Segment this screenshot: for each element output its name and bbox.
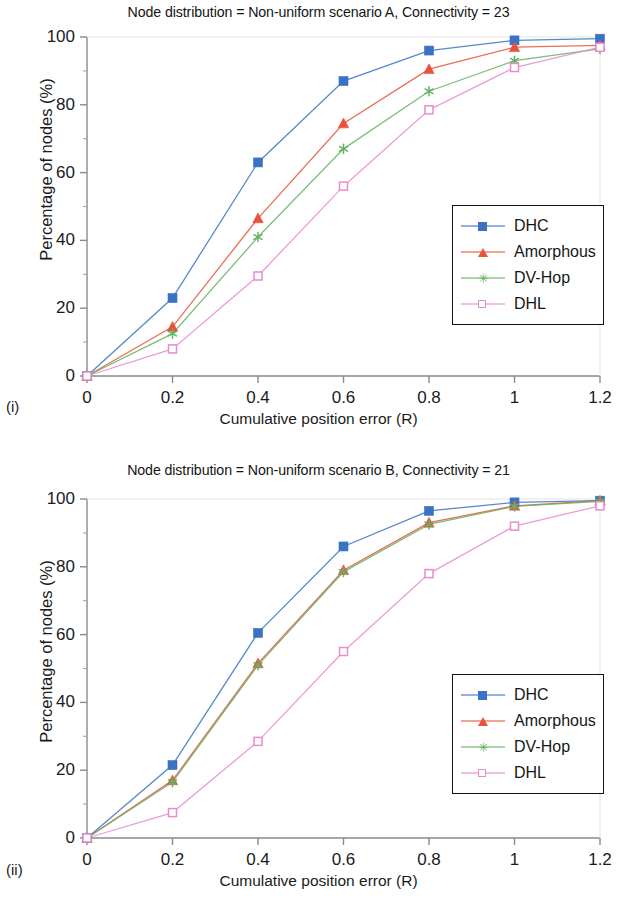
legend-label: DHL: [514, 765, 546, 781]
x-tick-label: 1: [510, 388, 519, 408]
y-tick-label: 100: [0, 27, 75, 47]
y-tick-label: 80: [0, 95, 75, 115]
y-tick-label: 60: [0, 625, 75, 645]
y-tick-label: 60: [0, 163, 75, 183]
x-tick-label: 0: [82, 388, 91, 408]
plot-area-ii: Percentage of nodes (%) Cumulative posit…: [0, 462, 637, 901]
subfigure-label-i: (i): [6, 398, 19, 415]
legend-i: DHCAmorphous✳DV-HopDHL: [452, 205, 604, 325]
legend-item-dhc[interactable]: DHC: [461, 682, 593, 708]
x-tick-label: 1: [510, 850, 519, 870]
x-axis-label-i: Cumulative position error (R): [0, 410, 637, 428]
x-tick-label: 0.8: [417, 850, 441, 870]
legend-label: DHL: [514, 296, 546, 312]
legend-item-dhl[interactable]: DHL: [461, 291, 593, 317]
x-tick-label: 0.6: [332, 388, 356, 408]
subfigure-label-ii: (ii): [6, 861, 23, 878]
y-tick-label: 0: [0, 366, 75, 386]
legend-item-dv-hop[interactable]: ✳DV-Hop: [461, 265, 593, 291]
y-axis-label-ii: Percentage of nodes (%): [37, 502, 56, 802]
x-tick-label: 0.8: [417, 388, 441, 408]
x-tick-label: 0.4: [246, 388, 270, 408]
legend-marker-filled-square-icon: [461, 685, 505, 705]
legend-label: DV-Hop: [514, 270, 570, 286]
y-tick-label: 20: [0, 760, 75, 780]
legend-item-amorphous[interactable]: Amorphous: [461, 708, 593, 734]
x-tick-label: 0.6: [332, 850, 356, 870]
legend-label: Amorphous: [514, 244, 596, 260]
x-tick-label: 0: [82, 850, 91, 870]
legend-label: Amorphous: [514, 713, 596, 729]
chart-panel-ii: Node distribution = Non-uniform scenario…: [0, 440, 637, 901]
x-tick-label: 1.2: [588, 388, 612, 408]
y-tick-label: 0: [0, 828, 75, 848]
x-tick-label: 0.2: [161, 850, 185, 870]
y-tick-label: 20: [0, 298, 75, 318]
x-tick-label: 0.4: [246, 850, 270, 870]
legend-item-dv-hop[interactable]: ✳DV-Hop: [461, 734, 593, 760]
legend-marker-filled-triangle-icon: [461, 711, 505, 731]
x-axis-label-ii: Cumulative position error (R): [0, 872, 637, 890]
legend-marker-open-square-icon: [461, 763, 505, 783]
x-tick-label: 0.2: [161, 388, 185, 408]
y-tick-label: 80: [0, 557, 75, 577]
plot-area-i: Percentage of nodes (%) Cumulative posit…: [0, 0, 637, 440]
legend-item-amorphous[interactable]: Amorphous: [461, 239, 593, 265]
chart-panel-i: Node distribution = Non-uniform scenario…: [0, 0, 637, 440]
legend-label: DHC: [514, 218, 549, 234]
y-tick-label: 100: [0, 489, 75, 509]
y-tick-label: 40: [0, 230, 75, 250]
legend-marker-open-square-icon: [461, 294, 505, 314]
legend-marker-star-icon: ✳: [461, 268, 505, 288]
legend-item-dhl[interactable]: DHL: [461, 760, 593, 786]
x-tick-label: 1.2: [588, 850, 612, 870]
legend-label: DV-Hop: [514, 739, 570, 755]
legend-item-dhc[interactable]: DHC: [461, 213, 593, 239]
legend-marker-filled-triangle-icon: [461, 242, 505, 262]
figure-container: Node distribution = Non-uniform scenario…: [0, 0, 637, 901]
legend-ii: DHCAmorphous✳DV-HopDHL: [452, 674, 604, 794]
y-tick-label: 40: [0, 692, 75, 712]
legend-marker-star-icon: ✳: [461, 737, 505, 757]
legend-label: DHC: [514, 687, 549, 703]
legend-marker-filled-square-icon: [461, 216, 505, 236]
